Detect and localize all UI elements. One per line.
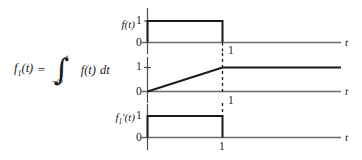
bottom-pulse-curve <box>148 116 223 138</box>
plot-vector-layer <box>0 0 362 160</box>
figure-root: f1(t) = t ∫ −∞ f(t) dt f(t) f1′(t) 1 0 1… <box>0 0 362 160</box>
middle-ramp-curve <box>148 68 342 92</box>
top-pulse-curve <box>148 21 223 43</box>
